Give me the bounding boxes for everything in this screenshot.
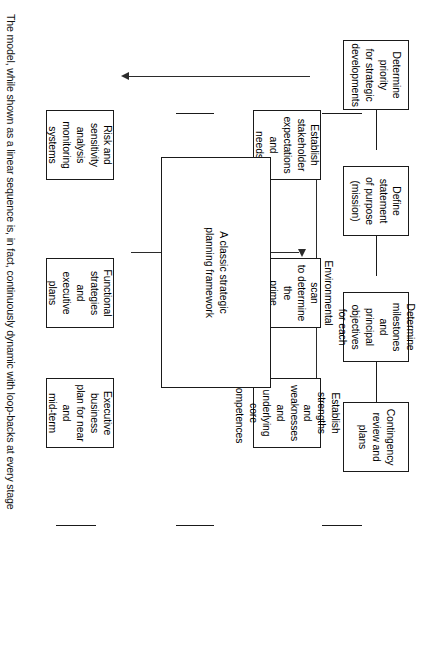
connector-functional-to-risk bbox=[322, 525, 362, 526]
connector-stakeholder-to-scan bbox=[322, 113, 362, 114]
stage-define-statement-of-purpose[interactable]: Define statement of purpose (mission) bbox=[343, 166, 409, 236]
framework-title-label: A classic strategic planning framework bbox=[202, 227, 229, 318]
stage-label: Risk and sensitivity analysis monitoring… bbox=[46, 115, 115, 175]
diagram-footnote: The model, while shown as a linear seque… bbox=[3, 14, 17, 510]
stage-determine-milestones[interactable]: Determine milestones and principal objec… bbox=[343, 292, 409, 362]
connector-scan-to-strengths bbox=[176, 113, 214, 114]
stage-label: Contingency review and plans bbox=[355, 407, 396, 467]
stage-functional-strategies[interactable]: Functional strategies and executive plan… bbox=[46, 258, 114, 328]
stage-contingency-review[interactable]: Contingency review and plans bbox=[343, 402, 409, 472]
stage-label: Define statement of purpose (mission) bbox=[349, 171, 404, 231]
flow-arrow-down-head bbox=[121, 72, 129, 80]
connector-executive-to-functional bbox=[176, 525, 214, 526]
stage-label: Establish strengths and weaknesses and u… bbox=[232, 383, 342, 444]
stage-label: Determine priority for strategic develop… bbox=[349, 43, 404, 107]
connector-contingency-to-executive bbox=[56, 525, 96, 526]
stage-establish-strengths[interactable]: Establish strengths and weaknesses and u… bbox=[253, 378, 321, 448]
stage-label: Executive business plan for near and mid… bbox=[46, 383, 115, 443]
stage-determine-priority[interactable]: Determine priority for strategic develop… bbox=[343, 40, 409, 110]
stage-executive-business-plan[interactable]: Executive business plan for near and mid… bbox=[46, 378, 114, 448]
connector-priority-to-purpose bbox=[376, 110, 377, 150]
stage-risk-and-sensitivity[interactable]: Risk and sensitivity analysis monitoring… bbox=[46, 110, 114, 180]
diagram-canvas: Determine priority for strategic develop… bbox=[0, 0, 434, 647]
flow-arrow-down-line bbox=[124, 76, 310, 77]
connector-milestones-to-contingency bbox=[376, 362, 377, 402]
flow-arrow-return-head bbox=[298, 249, 306, 257]
stage-label: Determine milestones and principal objec… bbox=[335, 297, 417, 357]
connector-purpose-to-milestones bbox=[376, 236, 377, 276]
framework-title-box: A classic strategic planning framework bbox=[161, 157, 271, 388]
stage-label: Functional strategies and executive plan… bbox=[46, 263, 115, 323]
